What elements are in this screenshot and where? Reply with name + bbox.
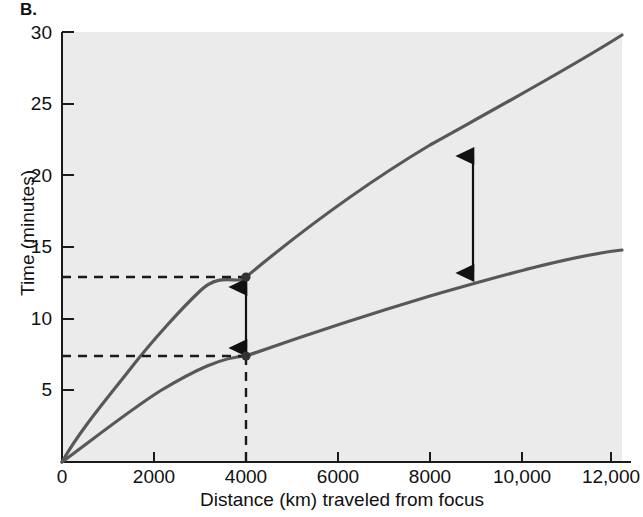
- plot-background: [62, 32, 622, 462]
- travel-time-chart-figure: B. Time (minutes) Distance (km) traveled…: [0, 0, 643, 517]
- chart-canvas: [0, 0, 643, 517]
- s-wave-marker-4000km: [241, 272, 250, 281]
- p-wave-marker-4000km: [241, 351, 250, 360]
